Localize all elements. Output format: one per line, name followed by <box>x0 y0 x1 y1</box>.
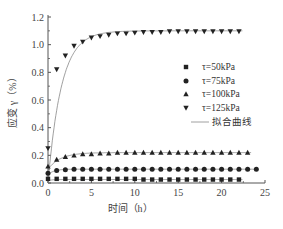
x-axis-title: 时间（h） <box>108 202 153 214</box>
legend-item: τ=75kPa <box>184 76 236 86</box>
legend-label: τ=100kPa <box>202 89 240 99</box>
y-tick-label: 1.0 <box>32 39 45 50</box>
x-tick-label: 0 <box>46 187 51 198</box>
y-tick-label: 0.6 <box>32 95 45 106</box>
x-tick-label: 20 <box>217 187 227 198</box>
fit-curve <box>48 153 251 170</box>
y-tick-label: 1.2 <box>32 12 45 23</box>
x-tick-label: 25 <box>260 187 270 198</box>
legend-item: 拟合曲线 <box>191 116 252 127</box>
series-circle <box>46 167 259 176</box>
x-tick-label: 10 <box>130 187 140 198</box>
legend-item: τ=50kPa <box>184 62 236 72</box>
x-tick-label: 5 <box>89 187 94 198</box>
legend: τ=50kPaτ=75kPaτ=100kPaτ=125kPa拟合曲线 <box>183 62 252 127</box>
series-square <box>46 177 241 182</box>
x-tick-label: 15 <box>173 187 183 198</box>
y-tick-label: 0.8 <box>32 67 45 78</box>
legend-item: τ=100kPa <box>183 89 240 99</box>
y-tick-label: 0.2 <box>32 150 45 161</box>
legend-label: 拟合曲线 <box>212 116 252 127</box>
y-axis-title: 应变 γ（%） <box>6 72 18 127</box>
strain-time-chart: 0.00.20.40.60.81.01.20510152025 τ=50kPaτ… <box>0 0 283 229</box>
y-tick-label: 0.0 <box>32 178 45 189</box>
legend-item: τ=125kPa <box>183 103 240 113</box>
legend-label: τ=125kPa <box>202 103 240 113</box>
legend-label: τ=75kPa <box>202 76 236 86</box>
y-tick-label: 0.4 <box>32 122 45 133</box>
legend-label: τ=50kPa <box>202 62 236 72</box>
